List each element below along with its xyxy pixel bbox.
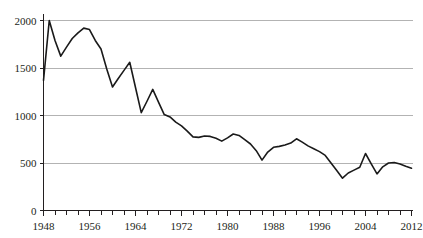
x-axis-tick-labels: 194819561964197219801988199620042012 [33,220,423,232]
y-tick-label-1500: 1500 [15,62,38,74]
data-line-series-1 [44,21,412,179]
y-axis-tick-labels: 0500100015002000 [15,15,38,217]
line-chart: 0500100015002000 19481956196419721980198… [0,0,423,238]
x-tick-label-1964: 1964 [125,220,148,232]
x-tick-label-1972: 1972 [171,220,193,232]
x-tick-label-2004: 2004 [355,220,378,232]
x-tick-label-2012: 2012 [401,220,423,232]
y-tick-label-0: 0 [31,205,37,217]
gridlines [40,21,413,211]
chart-canvas: 0500100015002000 19481956196419721980198… [0,0,423,238]
x-tick-label-1980: 1980 [217,220,240,232]
data-series [44,21,412,179]
y-tick-label-1000: 1000 [15,110,38,122]
y-tick-label-2000: 2000 [15,15,38,27]
x-tick-label-1948: 1948 [33,220,56,232]
x-tick-label-1988: 1988 [263,220,286,232]
x-axis-tick-marks [44,211,412,216]
y-tick-label-500: 500 [20,157,37,169]
x-tick-label-1956: 1956 [79,220,102,232]
x-tick-label-1996: 1996 [309,220,332,232]
